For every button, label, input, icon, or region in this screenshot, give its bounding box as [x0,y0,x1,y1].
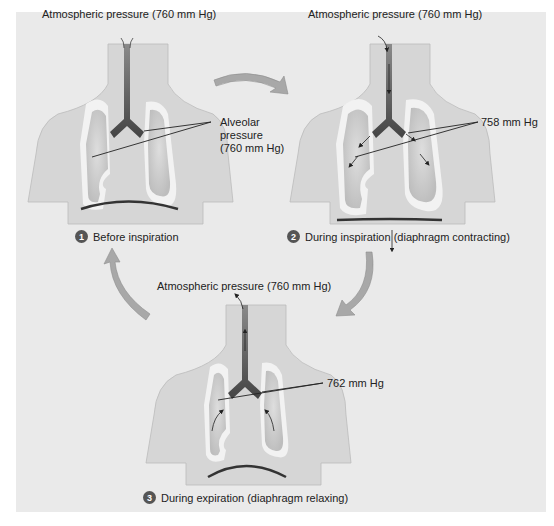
torso-expiration [146,295,351,485]
diagram-graphics [0,0,554,526]
atmospheric-pressure-label-expiration: Atmospheric pressure (760 mm Hg) [157,280,331,293]
torso-before [28,38,233,224]
step-number-badge: 3 [143,491,156,504]
step-number-badge: 2 [287,230,300,243]
step-2-caption: 2 During inspiration (diaphragm contract… [287,230,510,243]
torso-inspiration [290,36,495,250]
step-3-caption: 3 During expiration (diaphragm relaxing) [143,491,348,504]
step-1-caption: 1 Before inspiration [75,230,179,243]
atmospheric-pressure-label-before: Atmospheric pressure (760 mm Hg) [42,8,216,21]
atmospheric-pressure-label-inspiration: Atmospheric pressure (760 mm Hg) [308,8,482,21]
step-number-badge: 1 [75,230,88,243]
alveolar-pressure-label-inspiration: 758 mm Hg [481,116,538,129]
alveolar-pressure-label-before: Alveolar pressure (760 mm Hg) [220,116,284,155]
alveolar-pressure-label-expiration: 762 mm Hg [327,377,384,390]
